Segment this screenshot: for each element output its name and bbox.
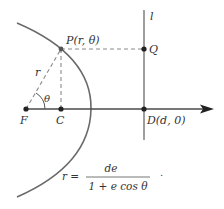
point-c [58, 106, 63, 111]
label-d: D(d, 0) [146, 114, 185, 127]
label-c: C [56, 114, 65, 127]
equation-numerator: de [105, 162, 118, 174]
equation-lhs: r = [62, 170, 79, 182]
point-f [23, 106, 28, 111]
point-p [59, 47, 64, 52]
label-f: F [19, 114, 28, 127]
point-d [141, 106, 146, 111]
label-l: l [150, 10, 154, 23]
equation-trailing: . [160, 167, 163, 178]
polar-conic-diagram: P(r, θ) l Q r θ F C D(d, 0) r = de 1 + e… [0, 0, 224, 209]
label-q: Q [149, 43, 158, 56]
label-theta: θ [44, 93, 50, 104]
label-p: P(r, θ) [65, 34, 100, 47]
label-r: r [35, 66, 41, 79]
point-q [141, 46, 146, 51]
equation-denominator: 1 + e cos θ [89, 180, 149, 192]
